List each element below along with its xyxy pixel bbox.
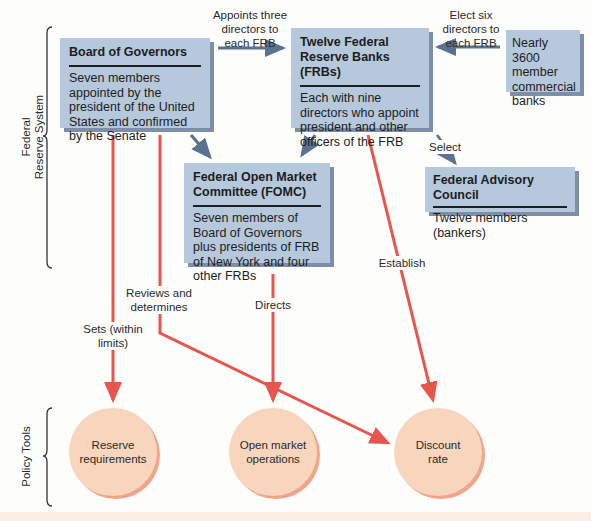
discount-rate-circle: Discount rate	[394, 408, 482, 496]
reserve-requirements-label: Reserve requirements	[78, 438, 148, 466]
bottom-bar	[0, 512, 591, 521]
member-banks-box: Nearly 3600 member commercial banks	[506, 30, 580, 92]
policy-tools-bracket	[43, 408, 52, 506]
advisory-council-title: Federal Advisory Council	[433, 173, 567, 208]
fomc-description: Seven members of Board of Governors plus…	[193, 211, 321, 284]
board-of-governors-description: Seven members appointed by the president…	[69, 71, 201, 144]
advisory-council-box: Federal Advisory Council Twelve members …	[425, 167, 575, 212]
appoints-label: Appoints three directors to each FRB	[210, 8, 290, 50]
fomc-title: Federal Open Market Committee (FOMC)	[193, 170, 321, 207]
policy-tools-label: Policy Tools	[20, 417, 33, 497]
frbs-description: Each with nine directors who appoint pre…	[300, 91, 420, 149]
frbs-box: Twelve Federal Reserve Banks (FRBs) Each…	[291, 28, 429, 128]
elect-label: Elect six directors to each FRB	[438, 8, 504, 50]
open-market-operations-circle: Open market operations	[229, 408, 317, 496]
bracket-label-line2: Reserve System	[33, 87, 46, 187]
select-label: Select	[425, 140, 465, 154]
federal-reserve-system-label: Federal Reserve System	[20, 87, 46, 187]
open-market-operations-label: Open market operations	[236, 438, 310, 466]
establish-label: Establish	[377, 256, 427, 270]
advisory-council-description: Twelve members (bankers)	[433, 211, 567, 240]
board-of-governors-box: Board of Governors Seven members appoint…	[60, 38, 210, 128]
sets-label: Sets (within limits)	[80, 322, 146, 350]
fomc-box: Federal Open Market Committee (FOMC) Sev…	[184, 163, 330, 263]
reserve-requirements-circle: Reserve requirements	[69, 408, 157, 496]
discount-rate-label: Discount rate	[410, 438, 466, 466]
board-of-governors-title: Board of Governors	[69, 45, 201, 67]
bracket-label-line1: Federal	[20, 87, 33, 187]
frbs-title: Twelve Federal Reserve Banks (FRBs)	[300, 35, 420, 87]
directs-label: Directs	[252, 298, 294, 312]
reviews-label: Reviews and determines	[126, 286, 192, 314]
member-banks-description: Nearly 3600 member commercial banks	[512, 36, 574, 109]
